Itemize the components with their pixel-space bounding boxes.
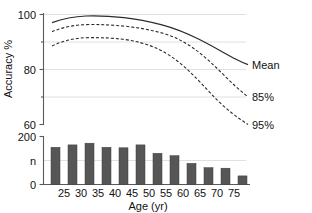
bar-72 <box>221 168 230 184</box>
xtick-label-35: 35 <box>92 187 104 199</box>
count-ytick-label-200: 200 <box>18 131 36 143</box>
xtick-label-75: 75 <box>228 187 240 199</box>
xtick-label-40: 40 <box>109 187 121 199</box>
bar-77 <box>238 176 247 185</box>
bar-32 <box>85 143 94 184</box>
bar-42 <box>119 148 128 185</box>
xtick-label-25: 25 <box>58 187 70 199</box>
xtick-label-30: 30 <box>75 187 87 199</box>
combined-chart-svg: 100 80 60 Accuracy % Mean 85% 95% <box>0 0 312 213</box>
bar-37 <box>102 147 111 184</box>
xtick-label-50: 50 <box>143 187 155 199</box>
count-ytick-label-0: 0 <box>30 179 36 191</box>
xtick-label-70: 70 <box>211 187 223 199</box>
bar-22 <box>51 147 60 184</box>
count-x-axis-title: Age (yr) <box>128 200 167 212</box>
xtick-label-55: 55 <box>160 187 172 199</box>
accuracy-y-axis-title: Accuracy % <box>2 40 14 98</box>
p85-accuracy-curve <box>52 25 248 97</box>
accuracy-line-chart: 100 80 60 Accuracy % Mean 85% 95% <box>2 9 280 131</box>
bar-67 <box>204 168 213 185</box>
count-xtick-labels: 25 30 35 40 45 50 55 60 65 70 75 <box>58 187 240 199</box>
bar-47 <box>136 145 145 185</box>
bar-27 <box>68 145 77 185</box>
bar-57 <box>170 156 179 185</box>
series-label-95: 95% <box>252 119 274 131</box>
xtick-label-45: 45 <box>126 187 138 199</box>
count-bar-chart: 200 0 n 25 30 <box>18 131 250 212</box>
mean-accuracy-curve <box>52 16 248 65</box>
figure-container: 100 80 60 Accuracy % Mean 85% 95% <box>0 0 312 213</box>
bar-52 <box>153 153 162 184</box>
accuracy-ytick-label-80: 80 <box>24 64 36 76</box>
accuracy-ytick-label-60: 60 <box>24 119 36 131</box>
count-bars <box>51 143 247 184</box>
bar-62 <box>187 163 196 184</box>
series-label-85: 85% <box>252 91 274 103</box>
accuracy-ytick-label-100: 100 <box>18 9 36 21</box>
count-y-axis-title: n <box>30 155 36 167</box>
xtick-label-60: 60 <box>177 187 189 199</box>
series-label-mean: Mean <box>252 59 280 71</box>
xtick-label-65: 65 <box>194 187 206 199</box>
accuracy-gridlines <box>44 15 246 98</box>
p95-accuracy-curve <box>52 38 248 125</box>
